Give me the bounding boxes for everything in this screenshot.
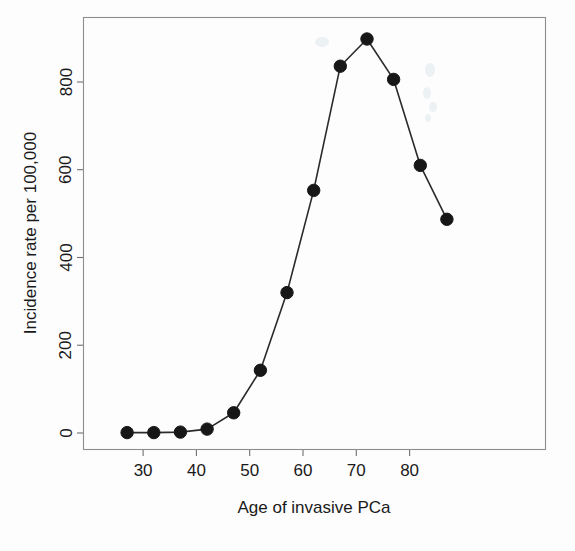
y-axis-tick-labels: 0 200 400 600 800 bbox=[57, 68, 76, 438]
data-point bbox=[334, 60, 346, 72]
data-point bbox=[201, 423, 213, 435]
plot-frame bbox=[84, 18, 546, 450]
x-tick-label-70: 70 bbox=[347, 461, 366, 480]
data-point bbox=[174, 426, 186, 438]
y-axis-title: Incidence rate per 100,000 bbox=[21, 132, 40, 334]
data-point bbox=[121, 426, 133, 438]
data-point bbox=[228, 407, 240, 419]
y-tick-label-200: 200 bbox=[57, 331, 76, 359]
data-point bbox=[148, 426, 160, 438]
x-tick-label-50: 50 bbox=[240, 461, 259, 480]
data-point bbox=[254, 364, 266, 376]
x-axis-ticks bbox=[143, 450, 410, 456]
data-point bbox=[441, 213, 453, 225]
data-point bbox=[281, 286, 293, 298]
x-axis-title: Age of invasive PCa bbox=[237, 498, 391, 517]
data-point bbox=[361, 33, 373, 45]
data-point-group bbox=[121, 33, 453, 439]
y-tick-label-800: 800 bbox=[57, 68, 76, 96]
data-point bbox=[308, 184, 320, 196]
incidence-rate-line-chart: 0 200 400 600 800 Incidence rate per 100… bbox=[0, 0, 575, 551]
y-axis-ticks bbox=[77, 82, 83, 433]
y-tick-label-400: 400 bbox=[57, 243, 76, 271]
x-axis-tick-labels: 30 40 50 60 70 80 bbox=[134, 461, 419, 480]
chart-figure: 0 200 400 600 800 Incidence rate per 100… bbox=[0, 0, 575, 551]
y-tick-label-600: 600 bbox=[57, 156, 76, 184]
x-tick-label-40: 40 bbox=[187, 461, 206, 480]
data-point bbox=[387, 73, 399, 85]
y-tick-label-0: 0 bbox=[57, 428, 76, 437]
data-line bbox=[127, 39, 447, 433]
scan-watermark bbox=[315, 37, 437, 122]
x-tick-label-60: 60 bbox=[294, 461, 313, 480]
data-point bbox=[414, 159, 426, 171]
x-tick-label-30: 30 bbox=[134, 461, 153, 480]
x-tick-label-80: 80 bbox=[400, 461, 419, 480]
